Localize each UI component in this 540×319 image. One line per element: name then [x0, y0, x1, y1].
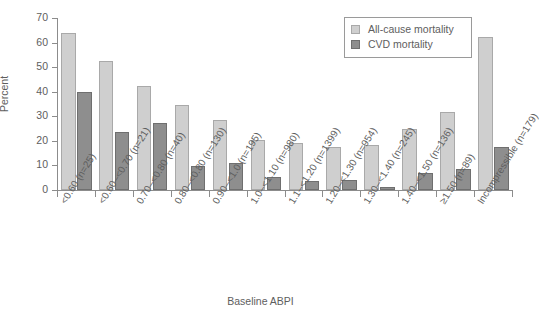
- x-tick-mark: [512, 191, 513, 197]
- bar-all-cause: [99, 61, 114, 190]
- x-tick-mark: [285, 191, 286, 197]
- y-tick-label: 70: [14, 12, 48, 23]
- x-tick-mark: [247, 191, 248, 197]
- y-tick-label: 40: [14, 86, 48, 97]
- y-tick-label: 0: [14, 184, 48, 195]
- legend-item-cvd-mortality: CVD mortality: [351, 37, 466, 52]
- x-axis-title: Baseline ABPI: [0, 295, 521, 307]
- y-axis-title: Percent: [0, 76, 10, 112]
- y-tick-label: 60: [14, 37, 48, 48]
- y-tick-label: 20: [14, 135, 48, 146]
- legend-swatch-icon-cvd: [351, 40, 360, 49]
- x-tick-mark: [95, 191, 96, 197]
- legend-label-cvd: CVD mortality: [368, 39, 433, 50]
- bar-cvd: [380, 187, 395, 190]
- x-tick-mark: [322, 191, 323, 197]
- bar-all-cause: [478, 37, 493, 190]
- x-tick-mark: [398, 191, 399, 197]
- x-tick-mark: [57, 191, 58, 197]
- x-tick-mark: [436, 191, 437, 197]
- y-tick-label: 50: [14, 61, 48, 72]
- x-tick-mark: [133, 191, 134, 197]
- x-tick-mark: [171, 191, 172, 197]
- bar-all-cause: [61, 33, 76, 191]
- legend-item-all-cause-mortality: All-cause mortality: [351, 22, 466, 37]
- y-tick-label: 30: [14, 110, 48, 121]
- x-tick-mark: [474, 191, 475, 197]
- legend-swatch-icon-all-cause: [351, 25, 360, 34]
- chart-legend: All-cause mortality CVD mortality: [344, 17, 472, 58]
- x-tick-mark: [209, 191, 210, 197]
- y-tick-label: 10: [14, 159, 48, 170]
- legend-label-all-cause: All-cause mortality: [368, 24, 454, 35]
- x-tick-mark: [360, 191, 361, 197]
